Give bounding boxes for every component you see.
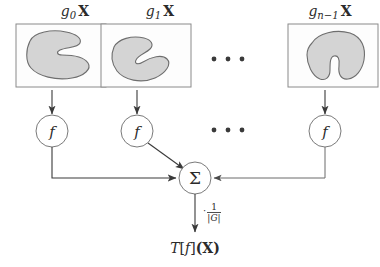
output-argument: (X) bbox=[196, 240, 220, 256]
ellipsis-panels bbox=[212, 57, 245, 62]
svg-text:g1X: g1X bbox=[146, 3, 174, 21]
input-label-subscript-1: 1 bbox=[155, 10, 161, 21]
input-label-operator-1: g bbox=[146, 3, 155, 19]
input-label-operator-0: g bbox=[61, 3, 70, 19]
scale-factor-numerator: 1 bbox=[211, 202, 217, 212]
edge-node0-to-sum bbox=[52, 147, 176, 178]
function-node-0: f bbox=[36, 115, 68, 147]
figure-canvas: g0X g1X gn−1X bbox=[0, 0, 380, 267]
input-panel-branch-n-1 bbox=[288, 24, 378, 87]
svg-text:g0X: g0X bbox=[61, 3, 89, 21]
input-label-branch-0: g0X bbox=[61, 3, 89, 21]
edge-node1-to-sum bbox=[148, 143, 184, 169]
output-label: T[f](X) bbox=[170, 240, 220, 256]
svg-text:gn−1X: gn−1X bbox=[308, 3, 351, 21]
svg-text:T[f](X): T[f](X) bbox=[170, 240, 220, 256]
diagram-svg: g0X g1X gn−1X bbox=[0, 0, 380, 267]
input-label-operand-0: X bbox=[78, 3, 89, 19]
scale-factor-prefix: · bbox=[203, 205, 206, 216]
input-label-operand-1: X bbox=[163, 3, 174, 19]
sum-node: Σ bbox=[179, 162, 211, 194]
input-label-operand-n-1: X bbox=[341, 3, 352, 19]
scale-factor-denominator: |G| bbox=[207, 213, 220, 224]
ellipsis-nodes bbox=[212, 128, 245, 133]
edge-noden-to-sum bbox=[214, 147, 325, 178]
input-label-branch-n-1: gn−1X bbox=[308, 3, 351, 21]
input-label-branch-1: g1X bbox=[146, 3, 174, 21]
input-label-subscript-n-1: n−1 bbox=[317, 10, 338, 21]
sum-node-label: Σ bbox=[189, 168, 201, 188]
input-panel-branch-0 bbox=[16, 24, 106, 87]
input-label-operator-n-1: g bbox=[308, 3, 317, 19]
function-node-1: f bbox=[121, 115, 153, 147]
input-panel-branch-1 bbox=[101, 24, 191, 87]
function-node-n-1: f bbox=[309, 115, 341, 147]
scale-factor-label: · 1 |G| bbox=[203, 202, 221, 224]
input-label-subscript-0: 0 bbox=[70, 10, 77, 21]
